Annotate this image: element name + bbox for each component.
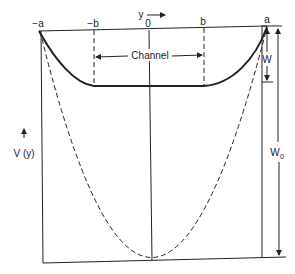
channel-arrow-right [172, 55, 202, 56]
w-label: W [262, 54, 272, 65]
neg-b-label: −b [87, 18, 99, 29]
bottom-line [43, 257, 286, 263]
w0-subscript: 0 [280, 153, 284, 160]
channel-label: Channel [131, 50, 168, 61]
left-wall [41, 31, 43, 263]
neg-a-label: −a [32, 18, 44, 29]
top-line [39, 26, 267, 31]
b-label: b [200, 16, 206, 27]
dashed-parabola-curve [40, 27, 267, 258]
channel-arrow-left [96, 56, 128, 57]
zero-label: 0 [145, 18, 151, 29]
y-axis-label: y [139, 9, 144, 20]
potential-well-diagram: Channel −a −b 0 b a y W W 0 V (y) [0, 0, 295, 274]
v-of-y-label: V (y) [13, 148, 34, 159]
w0-label: W [270, 147, 280, 158]
a-label: a [264, 14, 270, 25]
center-axis [149, 30, 152, 261]
